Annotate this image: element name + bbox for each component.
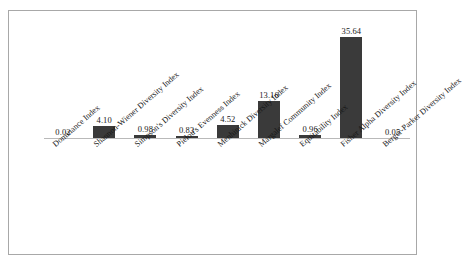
bar-value-label: 4.52 — [220, 114, 235, 124]
bar-value-label: 4.10 — [97, 115, 112, 125]
bar-value-label: 35.64 — [342, 26, 362, 36]
